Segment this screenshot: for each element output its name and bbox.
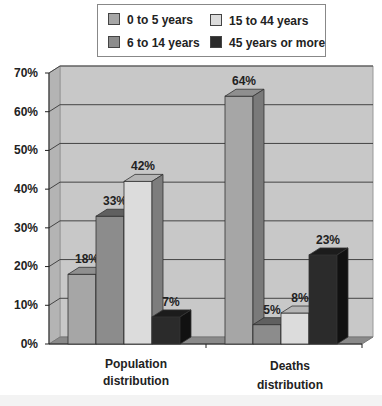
bar-front (225, 96, 253, 344)
y-tick-70: 70% (0, 66, 38, 80)
y-tick-20: 20% (0, 259, 38, 273)
data-label: 8% (291, 291, 309, 305)
category-line: distribution (240, 376, 340, 395)
bar-front (281, 313, 309, 344)
y-tick-40: 40% (0, 182, 38, 196)
bar-front (124, 181, 152, 344)
bar-front (152, 317, 180, 344)
category-line: Deaths (240, 357, 340, 376)
category-label-population: Population distribution (86, 356, 186, 390)
data-label: 7% (162, 295, 180, 309)
bar-front (96, 216, 124, 344)
bar-front (309, 255, 337, 344)
bar-front (253, 325, 281, 344)
data-label: 23% (316, 233, 340, 247)
bar-front (68, 274, 96, 344)
data-label: 42% (131, 159, 155, 173)
y-tick-50: 50% (0, 143, 38, 157)
category-line: distribution (86, 373, 186, 390)
y-tick-30: 30% (0, 221, 38, 235)
bar-side (337, 248, 348, 344)
y-tick-10: 10% (0, 298, 38, 312)
data-label: 64% (232, 74, 256, 88)
y-tick-0: 0% (0, 337, 38, 351)
y-tick-60: 60% (0, 105, 38, 119)
bottom-strip (0, 395, 382, 406)
category-line: Population (86, 356, 186, 373)
chart-plot-area: 18%64%33%5%42%8%7%23% (0, 0, 382, 406)
data-label: 5% (263, 303, 281, 317)
category-label-deaths: Deaths distribution (240, 357, 340, 395)
